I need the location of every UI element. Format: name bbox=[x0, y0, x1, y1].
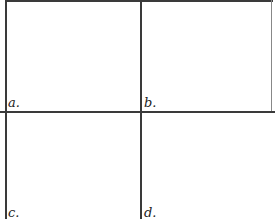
center-vertical-divider bbox=[140, 0, 142, 219]
panel-label-b: b. bbox=[144, 96, 156, 109]
top-border bbox=[5, 0, 273, 2]
left-border bbox=[5, 0, 7, 219]
panel-label-c: c. bbox=[8, 206, 19, 219]
right-border bbox=[271, 0, 272, 111]
panel-label-d: d. bbox=[144, 206, 156, 219]
center-horizontal-divider bbox=[0, 111, 275, 113]
panel-label-a: a. bbox=[8, 96, 20, 109]
